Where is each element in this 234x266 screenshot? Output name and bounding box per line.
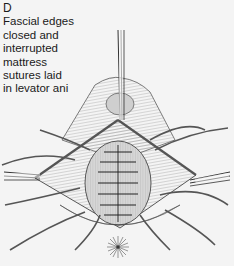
caption-line: in levator ani (3, 82, 74, 95)
left-clamp (4, 172, 40, 180)
caption-line: sutures laid (3, 69, 74, 82)
caption-line: closed and (3, 29, 74, 42)
caption-line: interrupted (3, 42, 74, 55)
caption-line: mattress (3, 56, 74, 69)
panel-label: D (3, 2, 74, 15)
caption-line: Fascial edges (3, 15, 74, 28)
surgical-illustration: D Fascial edges closed and interrupted m… (0, 0, 234, 266)
anus-marker (107, 236, 129, 258)
figure-caption: D Fascial edges closed and interrupted m… (3, 2, 74, 96)
sutured-mound (85, 141, 151, 225)
